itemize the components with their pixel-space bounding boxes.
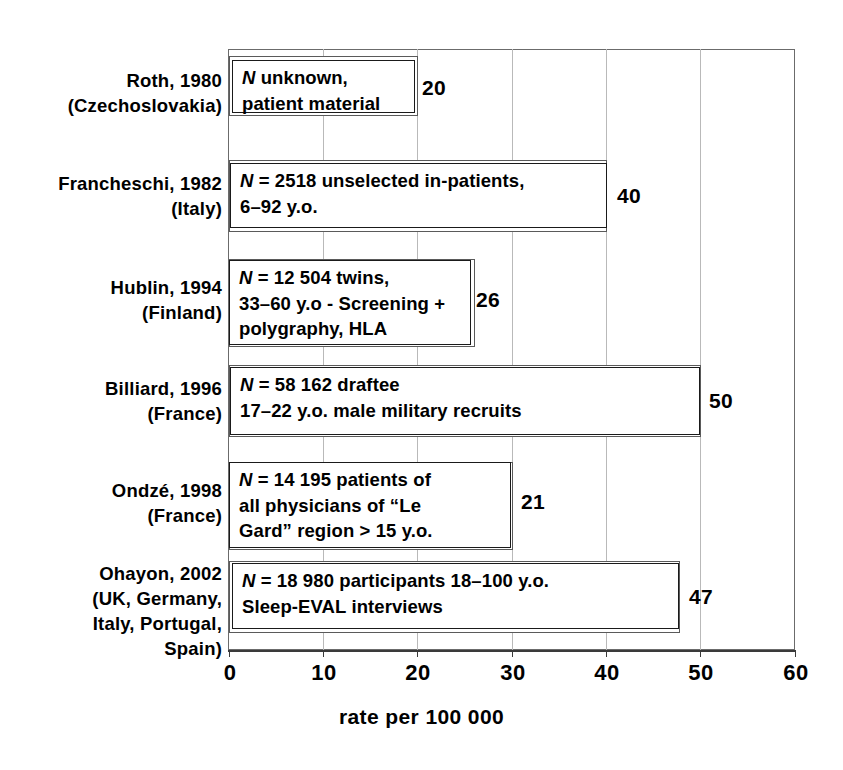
bar-value-ondze-1998: 21 (521, 490, 545, 514)
bar-chart-figure: Roth, 1980 (Czechoslovakia) N unknown, p… (0, 0, 843, 770)
x-tick-40 (606, 650, 607, 657)
bar-annotation-text-roth-1980: unknown, patient material (242, 67, 380, 114)
bar-value-roth-1980: 20 (422, 76, 446, 100)
bar-annotation-box-ondze-1998: N = 14 195 patients of all physicians of… (229, 462, 511, 548)
gridline-30 (512, 49, 513, 650)
x-tick-label-10: 10 (294, 660, 354, 686)
bar-annotation-text-ondze-1998: = 14 195 patients of all physicians of “… (239, 469, 433, 541)
n-symbol: N (240, 170, 253, 191)
row-label-ondze-1998: Ondzé, 1998 (France) (0, 478, 222, 528)
row-label-hublin-1994: Hublin, 1994 (Finland) (0, 275, 222, 325)
n-symbol: N (240, 374, 253, 395)
bar-annotation-box-hublin-1994: N = 12 504 twins, 33–60 y.o - Screening … (229, 260, 471, 345)
bar-value-francheschi-1982: 40 (617, 184, 641, 208)
row-label-ohayon-2002: Ohayon, 2002 (UK, Germany, Italy, Portug… (0, 561, 222, 661)
x-tick-label-0: 0 (200, 660, 260, 686)
x-tick-10 (323, 650, 324, 657)
bar-value-billiard-1996: 50 (709, 389, 733, 413)
x-tick-0 (229, 650, 230, 657)
x-tick-label-60: 60 (766, 660, 826, 686)
gridline-20 (417, 49, 418, 650)
gridline-10 (323, 49, 324, 650)
bar-annotation-box-francheschi-1982: N = 2518 unselected in-patients, 6–92 y.… (230, 163, 607, 228)
bar-value-ohayon-2002: 47 (689, 585, 713, 609)
bar-annotation-text-ohayon-2002: = 18 980 participants 18–100 y.o. Sleep-… (242, 570, 549, 617)
x-tick-30 (512, 650, 513, 657)
n-symbol: N (239, 267, 252, 288)
n-symbol: N (242, 67, 255, 88)
x-tick-20 (417, 650, 418, 657)
row-label-roth-1980: Roth, 1980 (Czechoslovakia) (0, 68, 222, 118)
n-symbol: N (239, 469, 252, 490)
gridline-50 (700, 49, 701, 650)
x-tick-label-40: 40 (577, 660, 637, 686)
row-label-francheschi-1982: Francheschi, 1982 (Italy) (0, 171, 222, 221)
x-tick-label-50: 50 (671, 660, 731, 686)
x-tick-label-30: 30 (483, 660, 543, 686)
x-axis-title: rate per 100 000 (0, 705, 843, 729)
row-label-billiard-1996: Billiard, 1996 (France) (0, 376, 222, 426)
bar-annotation-box-billiard-1996: N = 58 162 draftee 17–22 y.o. male milit… (230, 367, 700, 435)
n-symbol: N (242, 570, 255, 591)
gridline-40 (606, 49, 607, 650)
bar-annotation-box-roth-1980: N unknown, patient material (232, 60, 415, 113)
x-tick-label-20: 20 (388, 660, 448, 686)
x-tick-60 (795, 650, 796, 657)
x-tick-50 (700, 650, 701, 657)
bar-annotation-box-ohayon-2002: N = 18 980 participants 18–100 y.o. Slee… (232, 563, 679, 629)
bar-value-hublin-1994: 26 (476, 288, 500, 312)
bar-annotation-text-francheschi-1982: = 2518 unselected in-patients, 6–92 y.o. (240, 170, 524, 217)
bar-annotation-text-billiard-1996: = 58 162 draftee 17–22 y.o. male militar… (240, 374, 522, 421)
bar-annotation-text-hublin-1994: = 12 504 twins, 33–60 y.o - Screening + … (239, 267, 445, 339)
